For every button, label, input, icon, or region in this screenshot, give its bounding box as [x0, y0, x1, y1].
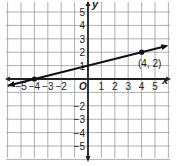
svg-text:−2: −2: [74, 101, 86, 112]
svg-text:−4: −4: [29, 81, 41, 92]
svg-text:−3: −3: [42, 81, 54, 92]
x-axis-label: x: [161, 74, 169, 86]
origin-label: O: [79, 81, 87, 92]
svg-text:5: 5: [152, 81, 158, 92]
coordinate-plane: −5−4−3−21234554321−2−3−4−5 x y O (4, 2): [0, 0, 177, 166]
svg-text:2: 2: [79, 47, 85, 58]
svg-text:−5: −5: [74, 141, 86, 152]
svg-text:5: 5: [79, 7, 85, 18]
y-axis-label: y: [91, 0, 99, 10]
svg-text:−3: −3: [74, 114, 86, 125]
point-label: (4, 2): [138, 58, 161, 69]
svg-text:4: 4: [139, 81, 145, 92]
svg-text:4: 4: [79, 20, 85, 31]
svg-text:−2: −2: [55, 81, 67, 92]
svg-text:3: 3: [125, 81, 131, 92]
svg-text:−4: −4: [74, 128, 86, 139]
svg-text:1: 1: [99, 81, 105, 92]
svg-text:3: 3: [79, 34, 85, 45]
svg-text:2: 2: [112, 81, 118, 92]
